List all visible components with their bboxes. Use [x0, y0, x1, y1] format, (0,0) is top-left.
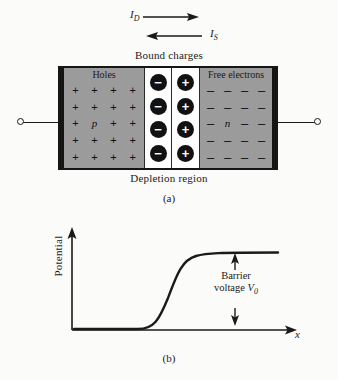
depletion-region-caption: Depletion region: [0, 172, 338, 184]
pn-junction-figure: ID IS Bound charges Holes +++++++++p++++…: [0, 0, 338, 380]
left-terminal-node: [17, 118, 24, 125]
minus-charge-symbol: –: [207, 152, 214, 163]
bound-negative-charge: −: [150, 98, 167, 115]
saturation-current-row: IS: [130, 27, 240, 44]
plus-charge-symbol: +: [91, 135, 97, 146]
depletion-region: −−−− ++++: [145, 68, 199, 168]
barrier-annotation-line2: voltage: [214, 282, 245, 293]
p-region: Holes +++++++++p++++++++++: [64, 68, 145, 168]
bound-positive-charge: +: [177, 98, 194, 115]
n-region: Free electrons –––––––––n––––––––––: [199, 68, 272, 168]
plus-charge-symbol: +: [91, 102, 97, 113]
bound-positive-charge: +: [177, 145, 194, 162]
minus-charge-symbol: –: [241, 118, 248, 129]
barrier-voltage-symbol: V0: [248, 282, 258, 293]
current-arrows-group: ID IS: [130, 8, 240, 46]
minus-charge-symbol: –: [207, 118, 214, 129]
n-region-charge-grid: –––––––––n––––––––––: [202, 82, 270, 166]
minus-charge-symbol: –: [258, 85, 265, 96]
minus-charge-symbol: –: [207, 85, 214, 96]
plus-charge-symbol: +: [129, 135, 135, 146]
minus-charge-symbol: –: [224, 85, 231, 96]
n-region-title: Free electrons: [200, 69, 272, 81]
minus-charge-symbol: –: [258, 118, 265, 129]
minus-charge-symbol: –: [258, 135, 265, 146]
minus-charge-symbol: –: [241, 85, 248, 96]
p-region-charge-grid: +++++++++p++++++++++: [66, 82, 142, 166]
plus-charge-symbol: +: [72, 85, 78, 96]
plot-x-axis-label: x: [295, 328, 300, 340]
minus-charge-symbol: –: [224, 152, 231, 163]
bound-positive-charge: +: [177, 121, 194, 138]
barrier-voltage-annotation: Barrier voltage V0: [190, 270, 282, 298]
junction-outline: Holes +++++++++p++++++++++ −−−− ++++ Fre…: [58, 66, 278, 170]
plus-charge-symbol: +: [129, 85, 135, 96]
bound-negative-charge: −: [150, 121, 167, 138]
diffusion-current-label: ID: [130, 9, 139, 24]
left-lead-wire: [22, 122, 60, 123]
plus-charge-symbol: +: [72, 152, 78, 163]
plus-charge-symbol: +: [110, 152, 116, 163]
diffusion-current-row: ID: [130, 8, 240, 25]
plus-charge-symbol: +: [110, 102, 116, 113]
minus-charge-symbol: –: [207, 135, 214, 146]
bound-negative-charge: −: [150, 74, 167, 91]
plus-charge-symbol: +: [110, 85, 116, 96]
minus-charge-symbol: –: [241, 135, 248, 146]
arrow-right-icon: [139, 11, 201, 23]
plus-charge-symbol: +: [129, 152, 135, 163]
minus-charge-symbol: –: [258, 152, 265, 163]
plus-charge-symbol: +: [110, 118, 116, 129]
saturation-current-label: IS: [210, 28, 218, 43]
plus-charge-symbol: +: [129, 102, 135, 113]
plus-charge-symbol: +: [110, 135, 116, 146]
minus-charge-symbol: –: [241, 152, 248, 163]
bound-negative-charge: −: [150, 145, 167, 162]
barrier-annotation-line1: Barrier: [221, 270, 251, 281]
minus-type-letter: n: [225, 118, 231, 129]
bound-positive-charge: +: [177, 74, 194, 91]
plus-charge-symbol: +: [91, 152, 97, 163]
plus-charge-symbol: +: [72, 135, 78, 146]
pn-junction-body: Holes +++++++++p++++++++++ −−−− ++++ Fre…: [58, 66, 278, 170]
minus-charge-symbol: –: [207, 102, 214, 113]
plus-type-letter: p: [92, 118, 98, 129]
potential-plot: Potential x Barrier voltage V0: [30, 222, 320, 347]
plot-y-axis-label: Potential: [52, 216, 64, 296]
plus-charge-symbol: +: [91, 85, 97, 96]
arrow-left-icon: [144, 30, 206, 42]
p-region-title: Holes: [64, 69, 144, 81]
right-lead-wire: [277, 122, 315, 123]
minus-charge-symbol: –: [258, 102, 265, 113]
depletion-negative-column: −−−−: [145, 68, 172, 168]
right-terminal-node: [314, 118, 321, 125]
plus-charge-symbol: +: [72, 118, 78, 129]
plus-charge-symbol: +: [129, 118, 135, 129]
minus-charge-symbol: –: [224, 135, 231, 146]
minus-charge-symbol: –: [224, 102, 231, 113]
plus-charge-symbol: +: [72, 102, 78, 113]
subcaption-b: (b): [0, 352, 338, 364]
depletion-positive-column: ++++: [172, 68, 199, 168]
subcaption-a: (a): [0, 192, 338, 204]
bound-charges-caption: Bound charges: [0, 49, 338, 61]
minus-charge-symbol: –: [241, 102, 248, 113]
